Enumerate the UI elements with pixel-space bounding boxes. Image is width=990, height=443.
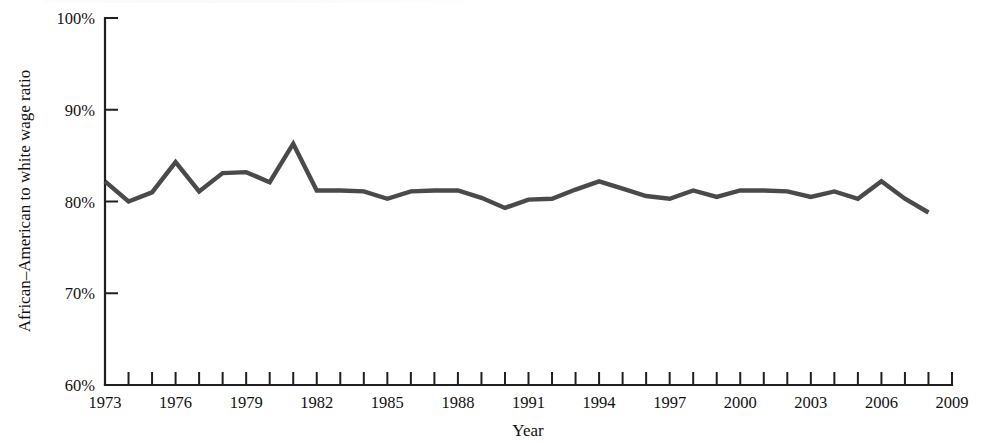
x-axis-tick-label: 1979 xyxy=(230,393,263,412)
figure-chart: 60%70%80%90%100% 19731976197919821985198… xyxy=(0,0,990,443)
y-axis-tick-label: 80% xyxy=(65,193,96,212)
x-axis-tick-label: 1982 xyxy=(300,393,333,412)
x-axis-tick-label: 2006 xyxy=(865,393,898,412)
x-axis-tick-label: 1973 xyxy=(89,393,122,412)
x-axis-title: Year xyxy=(512,421,544,440)
x-axis-tick-label: 1976 xyxy=(159,393,192,412)
x-axis-tick-labels: 1973197619791982198519881991199419972000… xyxy=(89,393,969,412)
x-axis-tick-label: 1994 xyxy=(583,393,616,412)
y-axis-tick-label: 70% xyxy=(65,284,96,303)
line-chart-svg: 60%70%80%90%100% 19731976197919821985198… xyxy=(0,0,990,443)
x-axis-tick-label: 1988 xyxy=(441,393,474,412)
x-axis-tick-label: 1997 xyxy=(653,393,686,412)
y-axis-tick-labels: 60%70%80%90%100% xyxy=(57,9,96,395)
x-axis-tick-label: 1985 xyxy=(371,393,404,412)
y-axis-tick-label: 100% xyxy=(57,9,96,28)
y-axis-title: African–American to white wage ratio xyxy=(15,70,34,332)
x-axis-tick-label: 2000 xyxy=(724,393,757,412)
data-series-line xyxy=(105,144,928,213)
x-axis-tick-label: 1991 xyxy=(512,393,545,412)
y-axis-ticks xyxy=(105,110,118,294)
y-axis-tick-label: 90% xyxy=(65,101,96,120)
x-axis-tick-label: 2003 xyxy=(794,393,827,412)
x-axis-tick-label: 2009 xyxy=(936,393,969,412)
x-axis-ticks xyxy=(129,372,929,385)
